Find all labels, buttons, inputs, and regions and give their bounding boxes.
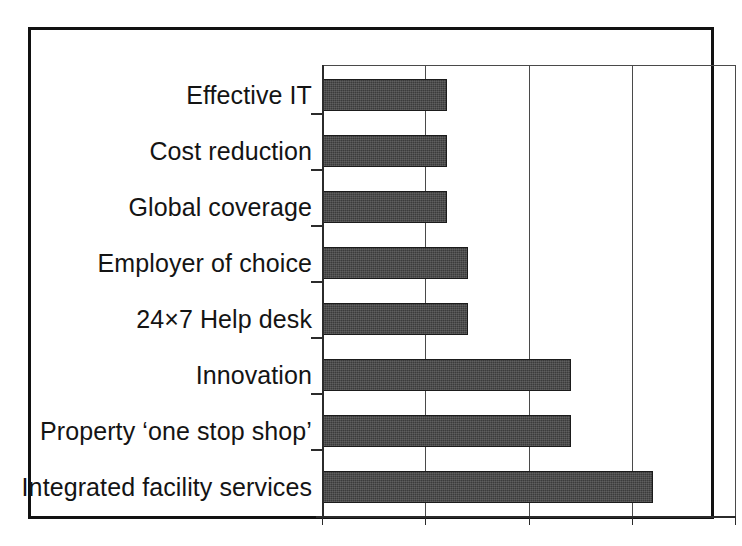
- bar-property-one-stop-shop: [323, 415, 571, 447]
- category-label-integrated-facility-services: Integrated facility services: [22, 473, 312, 502]
- category-label-innovation: Innovation: [196, 361, 312, 390]
- category-tick-1: [311, 113, 322, 115]
- category-axis: [316, 516, 736, 518]
- category-label-property-one-stop-shop: Property ‘one stop shop’: [40, 417, 312, 446]
- figure-border: Effective IT Cost reduction Global cover…: [28, 27, 714, 519]
- category-label-24x7-help-desk: 24×7 Help desk: [136, 305, 312, 334]
- bar-innovation: [323, 359, 571, 391]
- category-label-global-coverage: Global coverage: [128, 193, 312, 222]
- bar-24x7-help-desk: [323, 303, 468, 335]
- category-label-cost-reduction: Cost reduction: [149, 137, 312, 166]
- bar-cost-reduction: [323, 135, 447, 167]
- category-label-employer-of-choice: Employer of choice: [98, 249, 312, 278]
- value-tick-15: [632, 516, 633, 525]
- category-axis-labels: Effective IT Cost reduction Global cover…: [31, 65, 312, 517]
- bar-chart-figure: Effective IT Cost reduction Global cover…: [0, 0, 742, 546]
- category-tick-7: [311, 449, 322, 451]
- bar-effective-it: [323, 79, 447, 111]
- category-tick-3: [311, 225, 322, 227]
- bar-integrated-facility-services: [323, 471, 653, 503]
- category-tick-4: [311, 281, 322, 283]
- value-tick-5: [425, 516, 426, 525]
- value-tick-10: [529, 516, 530, 525]
- plot-right-border: [735, 65, 736, 517]
- bar-employer-of-choice: [323, 247, 468, 279]
- gridline-15: [632, 65, 633, 517]
- category-tick-5: [311, 337, 322, 339]
- gridline-10: [529, 65, 530, 517]
- value-tick-0: [322, 516, 323, 525]
- category-label-effective-it: Effective IT: [186, 81, 312, 110]
- plot-area: 0 5 10 15 20: [322, 65, 736, 517]
- bar-global-coverage: [323, 191, 447, 223]
- value-axis: [322, 65, 324, 517]
- category-tick-2: [311, 169, 322, 171]
- value-tick-20: [735, 516, 736, 525]
- gridline-5: [425, 65, 426, 517]
- category-tick-6: [311, 393, 322, 395]
